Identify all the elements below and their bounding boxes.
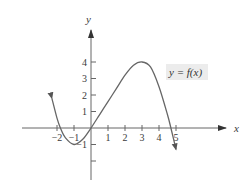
x-tick-label: −2	[52, 132, 63, 143]
y-tick-label: 1	[82, 106, 87, 117]
y-axis-label: y	[85, 13, 91, 25]
function-graph: −2−112345 −11234 x y y = f(x)	[0, 0, 249, 184]
y-tick-label: 2	[82, 90, 87, 101]
y-tick-label: 3	[82, 73, 87, 84]
x-tick-label: 4	[157, 132, 162, 143]
y-ticks: −11234	[76, 57, 96, 162]
function-label: y = f(x)	[168, 66, 202, 79]
x-tick-label: 2	[123, 132, 128, 143]
x-axis-label: x	[233, 122, 239, 134]
x-tick-label: 3	[140, 132, 145, 143]
x-tick-label: 1	[106, 132, 111, 143]
y-tick-label: 4	[82, 57, 87, 68]
